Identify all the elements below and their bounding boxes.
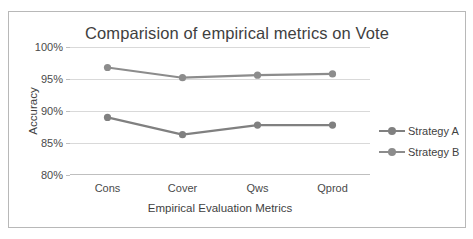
data-point-marker [104, 114, 111, 121]
legend-label: Strategy B [408, 146, 459, 158]
legend-marker-icon [379, 146, 405, 158]
data-point-marker [254, 121, 261, 128]
chart-title: Comparision of empirical metrics on Vote [9, 24, 465, 43]
y-axis-title: Accuracy [27, 87, 39, 134]
x-axis-tick-label: Cover [168, 182, 197, 194]
data-point-marker [329, 70, 336, 77]
legend-item[interactable]: Strategy B [379, 141, 459, 162]
x-axis-tick-label: Qws [247, 182, 269, 194]
chart-legend: Strategy AStrategy B [379, 120, 459, 162]
y-axis-tick-label: 95% [41, 73, 63, 85]
x-axis-tick-label: Cons [95, 182, 121, 194]
data-point-marker [329, 121, 336, 128]
y-axis-tick-mark [66, 175, 70, 176]
legend-marker-icon [379, 125, 405, 137]
data-point-marker [104, 64, 111, 71]
y-axis-tick-label: 85% [41, 137, 63, 149]
y-axis-tick-label: 80% [41, 169, 63, 181]
data-point-marker [254, 72, 261, 79]
legend-item[interactable]: Strategy A [379, 120, 459, 141]
data-point-marker [179, 131, 186, 138]
series-strategy-a [104, 114, 336, 138]
y-axis-tick-label: 100% [35, 41, 63, 53]
y-axis-tick-label: 90% [41, 105, 63, 117]
series-plot [70, 47, 370, 175]
x-axis-tick-label: Qprod [317, 182, 348, 194]
data-point-marker [179, 74, 186, 81]
series-strategy-b [104, 64, 336, 81]
legend-label: Strategy A [408, 125, 459, 137]
chart-frame: Comparision of empirical metrics on Vote… [8, 11, 466, 228]
x-axis-title: Empirical Evaluation Metrics [70, 202, 370, 214]
series-line [108, 117, 333, 134]
plot-area: 100%95%90%85%80% ConsCoverQwsQprod [70, 47, 370, 175]
series-line [108, 67, 333, 77]
